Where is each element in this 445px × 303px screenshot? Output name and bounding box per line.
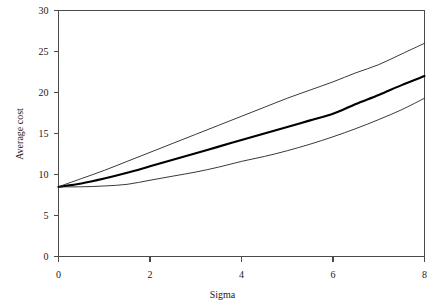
series-line-middle (59, 76, 425, 187)
y-tick-label: 5 (0, 211, 49, 221)
y-tick-label: 20 (0, 88, 49, 98)
y-tick-label: 30 (0, 6, 49, 16)
y-tick-label: 0 (0, 252, 49, 262)
tick-marks-group (54, 11, 425, 262)
x-tick-label: 2 (130, 270, 170, 280)
data-series-group (59, 43, 425, 187)
series-line-lower (59, 98, 425, 187)
chart-container: 051015202530 02468 Average cost Sigma (0, 0, 445, 303)
x-axis-title: Sigma (0, 290, 445, 300)
x-tick-label: 6 (313, 270, 353, 280)
series-line-upper (59, 43, 425, 187)
y-tick-label: 25 (0, 47, 49, 57)
axes-group (59, 11, 425, 257)
x-tick-label: 4 (222, 270, 262, 280)
x-tick-label: 0 (39, 270, 79, 280)
x-tick-label: 8 (405, 270, 445, 280)
chart-plot-area (0, 0, 445, 303)
y-axis-title: Average cost (15, 108, 25, 160)
y-tick-label: 10 (0, 170, 49, 180)
